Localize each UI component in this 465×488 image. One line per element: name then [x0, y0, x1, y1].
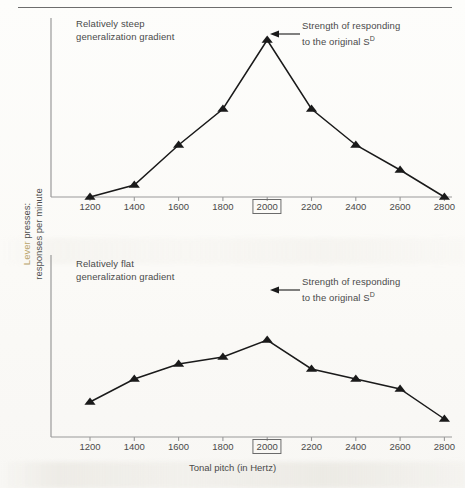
- flat-annotation-arrow: [270, 287, 300, 294]
- x-tick-label-2400: 2400: [345, 441, 366, 452]
- data-point-marker: [262, 335, 273, 342]
- x-tick-label-1800: 1800: [212, 441, 233, 452]
- data-point-marker: [84, 397, 95, 404]
- x-tick-label-2000: 2000: [253, 439, 282, 454]
- flat-data-markers: [84, 335, 450, 421]
- flat-x-tick-labels: 120014001600180020002200240026002800: [0, 441, 465, 455]
- x-tick-label-1200: 1200: [79, 441, 100, 452]
- x-tick-label-2600: 2600: [390, 441, 411, 452]
- data-point-marker: [306, 364, 317, 371]
- flat-generalization-gradient-chart: [0, 0, 465, 488]
- x-axis-title: Tonal pitch (in Hertz): [0, 462, 465, 473]
- flat-data-line: [90, 340, 444, 419]
- x-tick-label-2200: 2200: [301, 441, 322, 452]
- x-tick-label-1600: 1600: [168, 441, 189, 452]
- x-tick-label-1400: 1400: [124, 441, 145, 452]
- x-tick-label-2800: 2800: [434, 441, 455, 452]
